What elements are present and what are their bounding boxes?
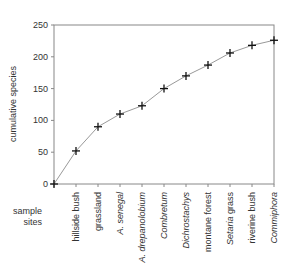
plus-marker-icon	[226, 49, 234, 57]
plus-marker-icon	[204, 61, 212, 69]
x-tick-label: montane forest	[203, 192, 213, 253]
species-accumulation-chart: 050100150200250 hillside bushgrasslandA.…	[0, 0, 293, 280]
x-axis-title-line1: sample	[13, 206, 42, 216]
x-tick-label: riverine bush	[247, 192, 257, 244]
x-tick-label: grassland	[93, 192, 103, 231]
x-axis-title: samplesites	[13, 206, 43, 227]
y-tick-label: 0	[43, 179, 48, 189]
x-tick-label: Dichrostachys	[181, 192, 191, 249]
plus-marker-icon	[116, 110, 124, 118]
data-markers	[50, 36, 278, 188]
y-tick-label: 150	[33, 84, 48, 94]
y-axis: 050100150200250	[33, 20, 54, 189]
x-tick-label: A. drepanolobium	[137, 191, 147, 263]
x-tick-label: A. senegal	[115, 191, 125, 236]
plus-marker-icon	[248, 41, 256, 49]
x-tick-label: Combretum	[159, 192, 169, 240]
plus-marker-icon	[182, 72, 190, 80]
data-line	[54, 40, 274, 184]
x-tick-label: Setaria grass	[225, 192, 235, 246]
series-line	[54, 40, 274, 184]
x-tick-label: Commiphora	[269, 192, 279, 244]
x-axis-title-line2: sites	[23, 217, 42, 227]
y-tick-label: 250	[33, 20, 48, 30]
y-tick-label: 200	[33, 52, 48, 62]
plus-marker-icon	[270, 36, 278, 44]
x-tick-label: hillside bush	[71, 192, 81, 242]
y-axis-title: cumulative species	[8, 65, 18, 142]
y-tick-label: 50	[38, 147, 48, 157]
y-tick-label: 100	[33, 115, 48, 125]
plus-marker-icon	[50, 180, 58, 188]
x-axis: hillside bushgrasslandA. senegalA. drepa…	[54, 184, 279, 264]
